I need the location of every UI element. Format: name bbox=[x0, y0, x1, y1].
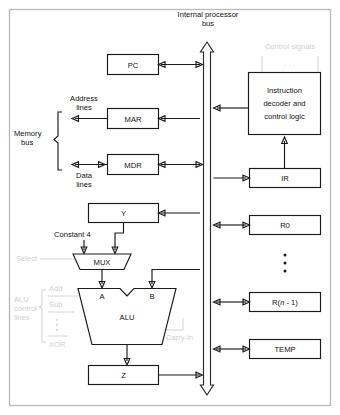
link-bus-alu-b bbox=[149, 270, 200, 289]
link-decoder-bus bbox=[214, 105, 249, 111]
block-ir-label: IR bbox=[281, 174, 289, 183]
control-signals-group: Control signals · · · bbox=[262, 42, 318, 72]
link-bus-temp bbox=[214, 346, 250, 352]
block-z: Z bbox=[89, 366, 159, 385]
block-z-label: Z bbox=[121, 371, 126, 380]
block-mdr-label: MDR bbox=[124, 161, 142, 170]
alu-control-item-add: Add bbox=[49, 284, 63, 293]
link-y-bus bbox=[159, 210, 201, 216]
carry-in-label: Carry-in bbox=[166, 333, 193, 342]
block-temp-label: TEMP bbox=[274, 345, 295, 354]
block-mdr: MDR bbox=[108, 155, 159, 175]
alu-input-b-label: B bbox=[149, 292, 154, 301]
link-mdr-bus bbox=[159, 162, 203, 168]
alu-control-item-xor: XOR bbox=[49, 340, 66, 349]
control-signals-label: Control signals bbox=[265, 42, 315, 51]
link-mux-alu bbox=[99, 270, 105, 289]
register-ellipsis bbox=[284, 254, 287, 273]
alu-control-bracket-line1: ALU bbox=[14, 295, 29, 304]
control-signals-ellipsis: · · · bbox=[284, 61, 296, 70]
memory-bus-group: Memory bus Address lines Data lines bbox=[14, 94, 98, 189]
link-mar-address-lines bbox=[72, 116, 108, 122]
constant-4-label: Constant 4 bbox=[54, 230, 91, 239]
block-mar: MAR bbox=[108, 109, 159, 129]
link-bus-rn-1 bbox=[214, 299, 250, 305]
block-mux-label: MUX bbox=[94, 258, 111, 267]
bus-label-line1: Internal processor bbox=[178, 10, 239, 19]
decoder-label-line1: Instruction bbox=[267, 86, 302, 95]
link-y-mux bbox=[112, 223, 123, 254]
diagram-canvas: Control signals · · · Select ALU control… bbox=[0, 0, 340, 415]
constant-4-group: Constant 4 bbox=[54, 230, 91, 254]
link-ir-decoder bbox=[282, 137, 288, 169]
block-mar-label: MAR bbox=[125, 115, 142, 124]
block-temp: TEMP bbox=[250, 340, 321, 359]
link-pc-bus bbox=[159, 62, 203, 68]
carry-in-group: Carry-in bbox=[166, 318, 193, 342]
link-mar-bus bbox=[159, 116, 201, 122]
mux-select-label: Select bbox=[16, 254, 38, 263]
address-lines-label-line2: lines bbox=[76, 103, 92, 112]
block-rn-1-label-post: - 1) bbox=[284, 298, 298, 307]
block-r0-label: R0 bbox=[280, 221, 290, 230]
mux-select-group: Select bbox=[16, 254, 76, 263]
decoder-label-line2: decoder and bbox=[263, 99, 305, 108]
bus-label-line2: bus bbox=[202, 19, 214, 28]
block-alu-label: ALU bbox=[120, 313, 135, 322]
data-lines-label-line1: Data bbox=[76, 171, 93, 180]
alu-control-bracket-line2: control bbox=[14, 304, 37, 313]
alu-control-item-sub: Sub bbox=[49, 300, 63, 309]
block-y: Y bbox=[89, 204, 159, 223]
block-mux: MUX bbox=[73, 254, 131, 270]
memory-bus-label-line2: bus bbox=[21, 138, 33, 147]
alu-control-bracket-line3: lines bbox=[14, 313, 30, 322]
block-instruction-decoder: Instruction decoder and control logic bbox=[249, 73, 321, 135]
block-alu: ALU A B bbox=[78, 289, 176, 345]
link-mdr-data-lines bbox=[72, 162, 108, 168]
block-ir: IR bbox=[250, 169, 321, 188]
block-pc: PC bbox=[108, 55, 159, 75]
block-pc-label: PC bbox=[128, 61, 139, 70]
alu-control-lines-group: ALU control lines Add Sub XOR bbox=[14, 284, 78, 349]
decoder-label-line3: control logic bbox=[264, 112, 305, 121]
block-rn-1-label: R(n - 1) bbox=[272, 298, 298, 307]
link-bus-ir bbox=[214, 175, 250, 181]
data-lines-label-line2: lines bbox=[76, 180, 92, 189]
address-lines-label-line1: Address bbox=[70, 94, 98, 103]
block-rn-1: R(n - 1) bbox=[250, 293, 321, 312]
block-r0: R0 bbox=[250, 216, 321, 235]
memory-bus-label-line1: Memory bbox=[14, 129, 42, 138]
link-alu-z bbox=[124, 345, 130, 366]
block-y-label: Y bbox=[121, 209, 126, 218]
link-z-bus bbox=[159, 372, 203, 378]
link-bus-r0 bbox=[214, 222, 250, 228]
